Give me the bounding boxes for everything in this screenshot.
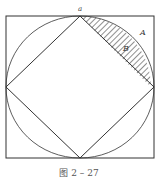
vertex-label-a: a	[78, 5, 82, 13]
inscribed-circle	[6, 16, 154, 158]
region-label-a: A	[139, 28, 146, 37]
region-label-b: B	[122, 44, 129, 53]
inner-square	[6, 16, 154, 158]
geometry-figure: a A B	[0, 0, 158, 182]
figure-caption: 图 2 – 27	[0, 166, 158, 179]
outer-square	[6, 16, 154, 158]
